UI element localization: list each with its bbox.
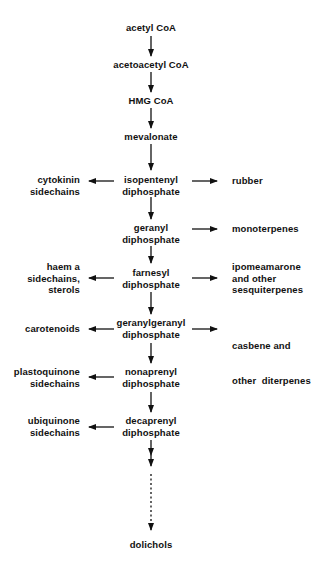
product-cytokinin-sidechains: cytokinin sidechains (30, 174, 80, 197)
node-hmg-coa: HMG CoA (91, 95, 211, 107)
product-haem-sterols: haem a sidechains, sterols (27, 261, 80, 296)
product-plastoquinone-sidechains: plastoquinone sidechains (14, 366, 80, 389)
node-geranylgeranyl-diphosphate: geranylgeranyl diphosphate (91, 317, 211, 340)
node-isopentenyl-diphosphate: isopentenyl diphosphate (91, 174, 211, 197)
product-monoterpenes: monoterpenes (232, 223, 299, 235)
node-acetoacetyl-coa: acetoacetyl CoA (91, 59, 211, 71)
node-decaprenyl-diphosphate: decaprenyl diphosphate (91, 415, 211, 438)
node-dolichols: dolichols (91, 539, 211, 551)
product-ubiquinone-sidechains: ubiquinone sidechains (28, 415, 80, 438)
node-nonaprenyl-diphosphate: nonaprenyl diphosphate (91, 366, 211, 389)
product-rubber: rubber (232, 175, 263, 187)
node-farnesyl-diphosphate: farnesyl diphosphate (91, 267, 211, 290)
product-diterpenes: casbene and other diterpenes (232, 317, 311, 398)
product-carotenoids: carotenoids (25, 323, 80, 335)
node-acetyl-coa: acetyl CoA (91, 22, 211, 34)
node-mevalonate: mevalonate (91, 131, 211, 143)
product-sesquiterpenes: ipomeamarone and other sesquiterpenes (232, 261, 303, 296)
node-geranyl-diphosphate: geranyl diphosphate (91, 222, 211, 245)
